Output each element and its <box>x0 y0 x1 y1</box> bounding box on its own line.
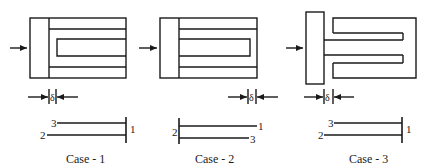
node-label: 2 <box>40 129 46 141</box>
gap-marker: δ <box>304 89 354 104</box>
gap-marker: δ <box>28 89 78 104</box>
case-1-assembly <box>30 18 126 78</box>
case-caption: Case - 3 <box>349 152 388 166</box>
outer-strip <box>333 18 416 78</box>
diagram-canvas: δ 3 2 1 Case - 1 δ <box>0 0 423 168</box>
node-label: 2 <box>318 129 324 141</box>
delta-label: δ <box>249 92 254 103</box>
node-label: 1 <box>258 120 264 132</box>
inner-strip <box>179 39 250 56</box>
plate <box>306 12 324 84</box>
outer-frame <box>30 18 126 78</box>
node-label: 3 <box>328 117 334 129</box>
node-label: 2 <box>172 126 178 138</box>
case-1: δ 3 2 1 Case - 1 <box>10 18 136 166</box>
node-label: 1 <box>130 123 136 135</box>
beam-diagram: 3 2 1 <box>40 117 136 143</box>
case-2-assembly <box>160 18 257 78</box>
case-3: δ 3 2 1 Case - 3 <box>286 12 416 166</box>
case-caption: Case - 1 <box>66 152 105 166</box>
node-label: 1 <box>406 123 412 135</box>
inner-strip <box>57 39 126 56</box>
case-3-assembly <box>306 12 416 84</box>
case-caption: Case - 2 <box>195 152 234 166</box>
outer-frame <box>160 18 257 78</box>
delta-label: δ <box>325 92 330 103</box>
node-label: 3 <box>51 117 57 129</box>
gap-marker: δ <box>228 89 278 104</box>
delta-label: δ <box>50 92 55 103</box>
beam-diagram: 3 2 1 <box>318 117 412 143</box>
node-label: 3 <box>250 133 256 145</box>
case-2: δ 2 1 3 Case - 2 <box>139 18 278 166</box>
beam-diagram: 2 1 3 <box>172 118 264 145</box>
